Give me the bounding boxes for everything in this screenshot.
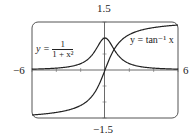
eq-prefix: y = xyxy=(36,43,50,54)
eq-denominator: 1 + x² xyxy=(52,50,73,59)
legend-arctan: y = tan⁻¹ x xyxy=(130,35,174,45)
y-max-label: 1.5 xyxy=(97,3,111,14)
x-max-label: 6 xyxy=(183,65,189,76)
legend-reciprocal: y = 1 1 + x² xyxy=(36,40,73,59)
chart-plot xyxy=(0,0,196,138)
y-min-label: −1.5 xyxy=(93,124,113,135)
x-min-label: −6 xyxy=(13,65,25,76)
eq-fraction: 1 1 + x² xyxy=(52,40,73,59)
